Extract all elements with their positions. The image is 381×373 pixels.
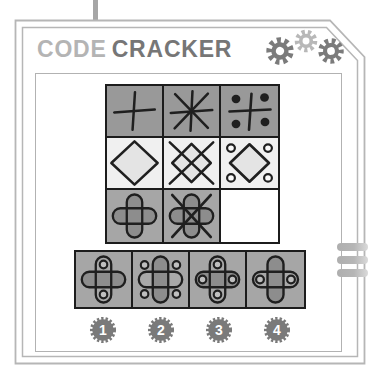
rounded-cross-symbol <box>107 190 162 242</box>
grid-cell-r1c1-plus <box>107 86 164 138</box>
side-tabs <box>337 243 368 277</box>
badge-number: 2 <box>146 315 176 345</box>
option-number-badges: 1 2 3 4 <box>74 315 306 345</box>
gear-icon <box>260 31 300 71</box>
option-number-badge-3[interactable]: 3 <box>204 315 234 345</box>
diamond-x-symbol <box>164 138 219 188</box>
diamond-corner-rings-symbol <box>221 138 278 188</box>
option-number-badge-2[interactable]: 2 <box>146 315 176 345</box>
badge-number: 1 <box>88 315 118 345</box>
puzzle-grid <box>105 84 280 244</box>
cross-rings-quadrants-symbol <box>133 252 188 307</box>
answer-option-2[interactable] <box>133 252 190 307</box>
grid-cell-r2c2-diamond-x <box>164 138 221 190</box>
cross-rings-left-right-symbol <box>247 252 304 307</box>
diamond-symbol <box>107 138 162 188</box>
code-cracker-card: CODECRACKER <box>0 0 381 373</box>
grid-cell-r1c3-plus-quadrant-dots <box>221 86 278 138</box>
grid-cell-r1c2-asterisk <box>164 86 221 138</box>
badge-number: 4 <box>262 315 292 345</box>
option-number-badge-1[interactable]: 1 <box>88 315 118 345</box>
side-tab <box>337 269 368 277</box>
grid-cell-r2c3-diamond-corner-rings <box>221 138 278 190</box>
rounded-cross-x-symbol <box>164 190 219 242</box>
option-number-badge-4[interactable]: 4 <box>262 315 292 345</box>
answer-option-1[interactable] <box>76 252 133 307</box>
side-tab <box>337 243 368 251</box>
answer-option-3[interactable] <box>190 252 247 307</box>
cross-rings-all-ends-symbol <box>190 252 245 307</box>
asterisk-symbol <box>164 86 219 136</box>
cross-rings-top-bottom-symbol <box>76 252 131 307</box>
plus-symbol <box>107 86 162 136</box>
title-word-cracker: CRACKER <box>112 36 233 62</box>
grid-cell-r3c2-rounded-cross-x <box>164 190 221 242</box>
badge-number: 3 <box>204 315 234 345</box>
gear-icon <box>311 31 351 71</box>
empty-symbol <box>221 190 278 242</box>
title-word-code: CODE <box>37 36 107 62</box>
answer-options-row <box>74 250 306 309</box>
grid-cell-r3c3-empty <box>221 190 278 242</box>
answer-option-4[interactable] <box>247 252 304 307</box>
grid-cell-r2c1-diamond <box>107 138 164 190</box>
side-tab <box>337 256 368 264</box>
grid-cell-r3c1-rounded-cross <box>107 190 164 242</box>
plus-quadrant-dots-symbol <box>221 86 278 136</box>
page-title: CODECRACKER <box>37 36 232 63</box>
